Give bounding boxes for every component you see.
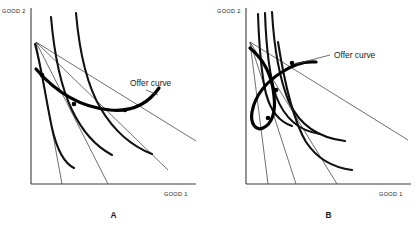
y-axis-label: GOOD 2 bbox=[2, 8, 26, 14]
panel-letter-b: B bbox=[326, 210, 332, 220]
offer-curve-label: Offer curve bbox=[334, 50, 376, 60]
tangency-point bbox=[274, 88, 279, 93]
x-axis-label: GOOD 1 bbox=[379, 191, 403, 197]
tangency-point bbox=[290, 61, 295, 66]
tangency-point bbox=[266, 116, 271, 121]
economics-offer-curve-figure: Offer curveGOOD 2GOOD 1AOffer curveGOOD … bbox=[0, 0, 420, 231]
tangency-point bbox=[40, 73, 45, 78]
x-axis-label: GOOD 1 bbox=[164, 191, 188, 197]
offer-curve-label: Offer curve bbox=[130, 78, 172, 88]
figure-container: Offer curveGOOD 2GOOD 1AOffer curveGOOD … bbox=[0, 0, 420, 231]
panel-a: Offer curveGOOD 2GOOD 1A bbox=[2, 8, 196, 220]
panel-b: Offer curveGOOD 2GOOD 1B bbox=[217, 8, 411, 220]
tangency-point bbox=[72, 102, 77, 107]
budget-line bbox=[36, 42, 108, 184]
tangency-point bbox=[123, 108, 128, 113]
panel-letter-a: A bbox=[111, 210, 117, 220]
y-axis-label: GOOD 2 bbox=[217, 8, 241, 14]
